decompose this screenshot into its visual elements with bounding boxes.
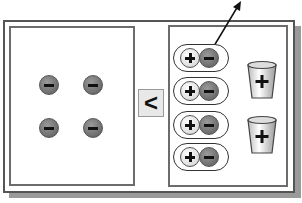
bin-icon (246, 115, 278, 155)
ion-pair (173, 77, 229, 105)
negative-ion-icon (39, 118, 59, 138)
negative-ion-icon (199, 115, 219, 135)
ion-pair (173, 44, 229, 72)
ion-pair (173, 143, 229, 171)
positive-ion-icon (180, 48, 200, 68)
arrow-up-right-icon (210, 0, 245, 50)
negative-ion-icon (83, 75, 103, 95)
ion-pair (173, 111, 229, 139)
negative-ion-icon (199, 147, 219, 167)
less-than-sign: < (138, 89, 164, 117)
negative-ion-icon (199, 48, 219, 68)
positive-ion-icon (180, 81, 200, 101)
positive-ion-icon (180, 115, 200, 135)
negative-ion-icon (39, 75, 59, 95)
bin-icon (246, 60, 278, 100)
positive-ion-icon (180, 147, 200, 167)
negative-ion-icon (83, 118, 103, 138)
left-panel (9, 26, 135, 186)
negative-ion-icon (199, 81, 219, 101)
